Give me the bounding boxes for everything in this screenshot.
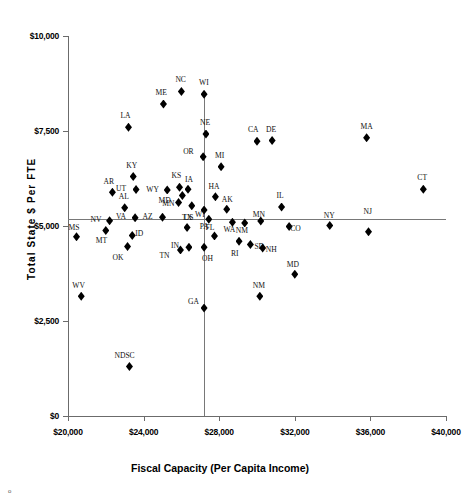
diamond-marker [254, 137, 261, 146]
scatter-chart: Total State $ Per FTE Fiscal Capacity (P… [0, 0, 463, 504]
data-point-label: NM [236, 227, 248, 235]
x-tick [295, 416, 296, 421]
corner-artifact: o [8, 488, 11, 494]
y-tick [63, 321, 68, 322]
x-tick [446, 416, 447, 421]
data-point-label: ME [155, 89, 166, 97]
diamond-marker [130, 172, 137, 181]
data-point-label: WV [72, 282, 85, 290]
data-point-label: WY [146, 186, 159, 194]
diamond-marker [188, 201, 195, 210]
data-point-label: CO [290, 225, 301, 233]
diamond-marker [201, 304, 208, 313]
y-tick [63, 416, 68, 417]
diamond-marker [179, 191, 186, 200]
x-tick [219, 416, 220, 421]
data-point-label: CT [417, 174, 427, 182]
y-tick-label: $7,500 [9, 126, 59, 136]
data-point-label: FL [205, 224, 214, 232]
x-tick-label: $28,000 [197, 427, 241, 437]
data-point-label: OK [113, 254, 124, 262]
data-point-label: RI [231, 250, 239, 258]
x-tick [144, 416, 145, 421]
diamond-marker [185, 185, 192, 194]
data-point-label: IL [277, 192, 284, 200]
diamond-marker [126, 362, 133, 371]
diamond-marker [164, 185, 171, 194]
data-point-label: VA [116, 213, 126, 221]
diamond-marker [200, 152, 207, 161]
diamond-marker [124, 242, 131, 251]
diamond-marker [211, 231, 218, 240]
diamond-marker [256, 292, 263, 301]
data-point-label: OH [202, 255, 213, 263]
diamond-marker [160, 100, 167, 109]
diamond-marker [212, 192, 219, 201]
data-point-label: NDSC [114, 352, 134, 360]
data-point-label: MD [159, 197, 171, 205]
diamond-marker [223, 205, 230, 214]
diamond-marker [184, 223, 191, 232]
data-point-label: WI [195, 211, 205, 219]
y-tick [63, 226, 68, 227]
data-point-label: UT [116, 185, 126, 193]
diamond-marker [73, 232, 80, 241]
data-point-label: OR [183, 148, 194, 156]
x-tick-label: $24,000 [122, 427, 166, 437]
data-point-label: NH [266, 246, 277, 254]
diamond-marker [236, 237, 243, 246]
data-point-label: MA [361, 123, 373, 131]
data-point-label: MN [253, 211, 265, 219]
data-point-label: TX [182, 214, 192, 222]
data-point-label: ID [135, 230, 143, 238]
data-point-label: GA [188, 298, 199, 306]
diamond-marker [365, 227, 372, 236]
x-axis-title: Fiscal Capacity (Per Capita Income) [131, 462, 309, 474]
y-tick-label: $2,500 [9, 316, 59, 326]
diamond-marker [132, 213, 139, 222]
data-point-label: MI [215, 152, 224, 160]
diamond-marker [176, 183, 183, 192]
data-point-label: IN [171, 242, 179, 250]
diamond-marker [178, 87, 185, 96]
data-point-label: MD [287, 261, 299, 269]
x-axis-line [68, 416, 446, 417]
data-point-label: NE [200, 119, 210, 127]
data-point-label: AZ [143, 213, 153, 221]
data-point-label: DE [266, 126, 276, 134]
data-point-label: LA [120, 112, 130, 120]
diamond-marker [420, 185, 427, 194]
diamond-marker [247, 240, 254, 249]
diamond-marker [159, 213, 166, 222]
diamond-marker [106, 216, 113, 225]
x-tick [370, 416, 371, 421]
x-tick-label: $40,000 [424, 427, 463, 437]
data-point-label: HA [208, 183, 219, 191]
data-point-label: MS [69, 224, 80, 232]
diamond-marker [109, 188, 116, 197]
data-point-label: NC [175, 76, 186, 84]
data-point-label: CA [248, 126, 259, 134]
diamond-marker [133, 185, 140, 194]
diamond-marker [363, 133, 370, 142]
data-point-label: KY [126, 162, 137, 170]
diamond-marker [269, 136, 276, 145]
diamond-marker [78, 292, 85, 301]
data-point-label: NY [324, 212, 335, 220]
data-point-label: AR [103, 178, 114, 186]
y-tick [63, 131, 68, 132]
data-point-label: WI [199, 79, 209, 87]
diamond-marker [326, 221, 333, 230]
x-tick-label: $36,000 [348, 427, 392, 437]
diamond-marker [125, 123, 132, 132]
data-point-label: NV [91, 216, 102, 224]
diamond-marker [121, 203, 128, 212]
diamond-marker [185, 243, 192, 252]
data-point-label: AK [222, 196, 233, 204]
y-tick-label: $5,000 [9, 221, 59, 231]
data-point-label: TN [159, 252, 169, 260]
diamond-marker [201, 243, 208, 252]
diamond-marker [218, 162, 225, 171]
diamond-marker [102, 226, 109, 235]
diamond-marker [291, 270, 298, 279]
